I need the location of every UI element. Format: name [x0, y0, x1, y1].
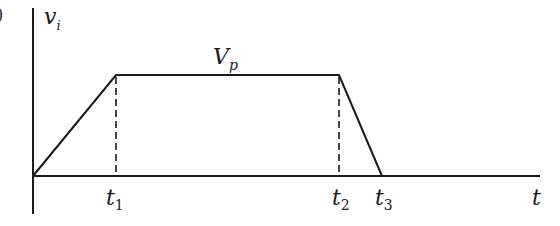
amplitude-label: Vp	[213, 44, 238, 73]
trapezoid-waveform	[33, 75, 382, 176]
partial-label: )	[0, 5, 3, 24]
y-axis-label: vi	[44, 4, 61, 33]
t1-label: t1	[106, 185, 124, 213]
x-axis-label: t	[532, 185, 541, 210]
pulse-diagram: ) vi Vp t1 t2 t3 t	[0, 0, 560, 226]
t2-label: t2	[332, 185, 350, 213]
t3-label: t3	[375, 185, 393, 213]
